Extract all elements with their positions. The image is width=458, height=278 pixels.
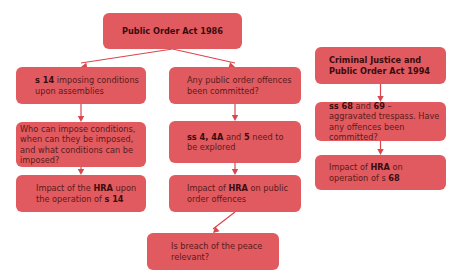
bold-reference: Public Order Act 1986 bbox=[122, 26, 223, 36]
label-text: Any public order offences been committed… bbox=[187, 75, 292, 96]
bold-reference: Criminal Justice and Public Order Act 19… bbox=[329, 55, 430, 76]
connector-poa1986-to-s14 bbox=[81, 49, 173, 63]
node-label: Impact of HRA on public order offences bbox=[187, 183, 295, 204]
node-label: ss 4, 4A and 5 need to be explored bbox=[187, 132, 295, 153]
label-text: and bbox=[223, 132, 244, 142]
node-cjpoa-1994: Criminal Justice and Public Order Act 19… bbox=[315, 47, 446, 84]
node-public-order-act-1986: Public Order Act 1986 bbox=[103, 13, 242, 49]
node-label: s 14 imposing conditions upon assemblies bbox=[35, 75, 140, 96]
label-text: Impact of the bbox=[36, 183, 93, 193]
node-hra-s68: Impact of HRA on operation of s 68 bbox=[315, 155, 446, 190]
label-text: and bbox=[353, 101, 374, 111]
connector-poa1986-to-offences bbox=[173, 49, 236, 63]
node-label: Is breach of the peace relevant? bbox=[171, 241, 273, 262]
label-text: Is breach of the peace relevant? bbox=[171, 241, 262, 262]
node-label: Any public order offences been committed… bbox=[187, 75, 295, 96]
bold-reference: HRA bbox=[228, 183, 248, 193]
node-s14-conditions: s 14 imposing conditions upon assemblies bbox=[16, 67, 146, 104]
node-label: Impact of the HRA upon the operation of … bbox=[36, 183, 140, 204]
node-ss-68-69: ss 68 and 69 – aggravated trespass. Have… bbox=[315, 102, 446, 141]
bold-reference: ss 68 bbox=[329, 101, 353, 111]
node-label: ss 68 and 69 – aggravated trespass. Have… bbox=[329, 101, 440, 143]
bold-reference: ss 4, 4A bbox=[187, 132, 223, 142]
node-label: Impact of HRA on operation of s 68 bbox=[329, 162, 440, 183]
bold-reference: s 14 bbox=[104, 194, 123, 204]
bold-reference: 69 bbox=[374, 101, 385, 111]
node-breach-of-peace: Is breach of the peace relevant? bbox=[147, 233, 279, 270]
bold-reference: s 14 bbox=[35, 75, 54, 85]
bold-reference: HRA bbox=[93, 183, 113, 193]
label-text: Impact of bbox=[329, 162, 370, 172]
node-hra-public-order: Impact of HRA on public order offences bbox=[169, 175, 301, 212]
node-label: Public Order Act 1986 bbox=[122, 26, 223, 37]
node-who-can-impose: Who can impose conditions, when can they… bbox=[16, 122, 146, 167]
node-public-order-offences: Any public order offences been committed… bbox=[169, 67, 301, 104]
node-label: Who can impose conditions, when can they… bbox=[20, 124, 144, 166]
label-text: Impact of bbox=[187, 183, 228, 193]
label-text: Who can impose conditions, when can they… bbox=[20, 124, 135, 166]
node-ss-4-4a-5: ss 4, 4A and 5 need to be explored bbox=[169, 121, 301, 163]
node-hra-s14: Impact of the HRA upon the operation of … bbox=[16, 175, 146, 212]
bold-reference: 68 bbox=[388, 173, 399, 183]
connector-hrapub-to-breach bbox=[213, 212, 235, 229]
bold-reference: HRA bbox=[370, 162, 390, 172]
node-label: Criminal Justice and Public Order Act 19… bbox=[329, 55, 440, 76]
